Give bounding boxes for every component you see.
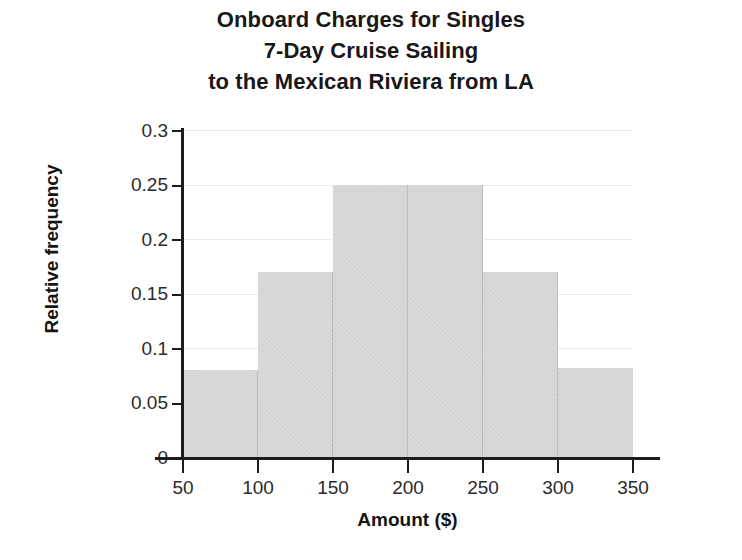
y-axis-line	[181, 128, 184, 459]
x-tick-mark-100	[257, 460, 259, 473]
y-tick-label-0.3: 0.3	[96, 121, 168, 140]
bar-200-250[interactable]	[408, 185, 483, 457]
y-axis-title: Relative frequency	[41, 119, 63, 379]
y-tick-label-0.2-wrap: 0.2	[88, 230, 168, 249]
y-tick-label-0.15-wrap: 0.15	[88, 284, 168, 303]
x-tick-label-150: 150	[293, 477, 373, 499]
y-tick-label-0.05-wrap: 0.05	[88, 393, 168, 412]
bar-150-200[interactable]	[333, 185, 408, 457]
y-tick-label-0.1: 0.1	[96, 339, 168, 358]
x-tick-mark-250	[482, 460, 484, 473]
chart-title-line-2: 7-Day Cruise Sailing	[0, 35, 742, 66]
bar-250-300[interactable]	[483, 272, 558, 457]
y-tick-label-0.15: 0.15	[96, 284, 168, 303]
x-tick-label-250: 250	[443, 477, 523, 499]
x-tick-label-300: 300	[518, 477, 598, 499]
chart-title: Onboard Charges for Singles 7-Day Cruise…	[0, 4, 742, 97]
x-tick-label-200: 200	[368, 477, 448, 499]
y-tick-label-0.05: 0.05	[96, 393, 168, 412]
bar-50-100[interactable]	[183, 370, 258, 457]
x-tick-label-100: 100	[218, 477, 298, 499]
y-tick-label-0.25-wrap: 0.25	[88, 175, 168, 194]
y-tick-label-0.2: 0.2	[96, 230, 168, 249]
bar-100-150[interactable]	[258, 272, 333, 457]
x-tick-mark-200	[407, 460, 409, 473]
x-axis-title: Amount ($)	[155, 509, 660, 531]
gridline-0.3	[183, 130, 633, 131]
x-tick-mark-150	[332, 460, 334, 473]
x-tick-label-50: 50	[143, 477, 223, 499]
x-tick-mark-50	[182, 460, 184, 473]
y-tick-label-0.1-wrap: 0.1	[88, 339, 168, 358]
x-tick-label-350: 350	[593, 477, 673, 499]
x-tick-mark-300	[557, 460, 559, 473]
x-tick-mark-350	[632, 460, 634, 473]
chart-title-line-1: Onboard Charges for Singles	[0, 4, 742, 35]
bar-300-350[interactable]	[558, 368, 633, 457]
y-tick-label-0.3-wrap: 0.3	[88, 121, 168, 140]
plot-area	[183, 130, 633, 457]
chart-title-line-3: to the Mexican Riviera from LA	[0, 66, 742, 97]
y-tick-label-0.25: 0.25	[96, 175, 168, 194]
